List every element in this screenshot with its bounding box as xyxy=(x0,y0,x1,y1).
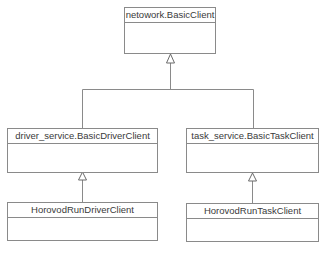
class-name: driver_service.BasicDriverClient xyxy=(8,129,157,144)
class-name: netowork.BasicClient xyxy=(125,8,215,23)
class-name: HorovodRunDriverClient xyxy=(8,203,157,218)
class-box-horovod-run-task-client: HorovodRunTaskClient xyxy=(186,203,319,242)
class-name: task_service.BasicTaskClient xyxy=(187,129,318,144)
generalization-arrow-icon xyxy=(79,172,87,180)
generalization-arrow-icon xyxy=(167,54,175,63)
class-box-basic-client: netowork.BasicClient xyxy=(124,7,216,54)
generalization-arrow-icon xyxy=(249,173,257,181)
class-box-basic-task-client: task_service.BasicTaskClient xyxy=(186,128,319,173)
class-box-basic-driver-client: driver_service.BasicDriverClient xyxy=(7,128,158,173)
uml-class-diagram: netowork.BasicClient driver_service.Basi… xyxy=(0,0,326,253)
class-name: HorovodRunTaskClient xyxy=(187,204,318,219)
class-box-horovod-run-driver-client: HorovodRunDriverClient xyxy=(7,202,158,241)
